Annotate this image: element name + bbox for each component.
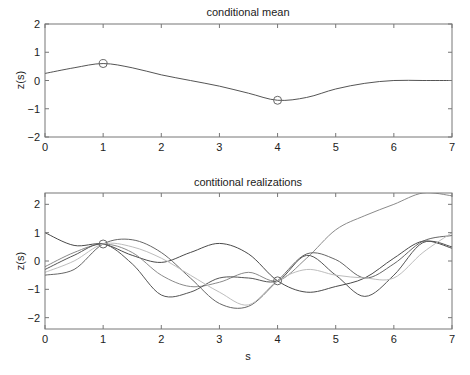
- y-tick-label: 2: [34, 198, 40, 210]
- x-tick-label: 5: [333, 141, 339, 153]
- bottom-plot-ticks: 01234567−2−1012: [27, 193, 455, 345]
- x-tick-label: 5: [333, 333, 339, 345]
- y-tick-label: 1: [34, 227, 40, 239]
- y-tick-label: 1: [34, 46, 40, 58]
- y-tick-label: 0: [34, 75, 40, 87]
- y-tick-label: −1: [27, 283, 40, 295]
- series-line-5: [45, 233, 452, 305]
- x-tick-label: 0: [42, 333, 48, 345]
- top-plot-title: conditional mean: [206, 6, 289, 18]
- x-tick-label: 7: [449, 333, 455, 345]
- top-plot-series: [45, 64, 452, 101]
- figure: conditional mean 01234567−2−1012 z(s) co…: [0, 0, 470, 375]
- bottom-plot-ylabel: z(s): [14, 252, 26, 270]
- top-plot-ticks: 01234567−2−1012: [27, 18, 455, 153]
- x-tick-label: 2: [158, 141, 164, 153]
- x-tick-label: 6: [391, 141, 397, 153]
- x-tick-label: 7: [449, 141, 455, 153]
- x-tick-label: 6: [391, 333, 397, 345]
- x-tick-label: 4: [275, 141, 281, 153]
- series-line-2: [45, 193, 452, 287]
- bottom-plot-title: contitional realizations: [194, 176, 303, 188]
- x-tick-label: 3: [216, 141, 222, 153]
- series-line-4: [45, 241, 452, 297]
- series-line-1: [45, 64, 452, 101]
- bottom-plot-series: [45, 193, 452, 309]
- x-tick-label: 0: [42, 141, 48, 153]
- top-plot-conditional-mean: conditional mean 01234567−2−1012 z(s): [14, 6, 455, 153]
- x-tick-label: 3: [216, 333, 222, 345]
- bottom-plot-xlabel: s: [245, 350, 251, 362]
- bottom-plot-conditional-realizations: contitional realizations 01234567−2−1012…: [14, 176, 455, 362]
- y-tick-label: −2: [27, 131, 40, 143]
- x-tick-label: 2: [158, 333, 164, 345]
- y-tick-label: 2: [34, 18, 40, 30]
- y-tick-label: 0: [34, 255, 40, 267]
- y-tick-label: −1: [27, 103, 40, 115]
- top-plot-ylabel: z(s): [14, 71, 26, 89]
- y-tick-label: −2: [27, 312, 40, 324]
- x-tick-label: 1: [100, 141, 106, 153]
- x-tick-label: 4: [275, 333, 281, 345]
- x-tick-label: 1: [100, 333, 106, 345]
- bottom-plot-frame: [45, 193, 452, 329]
